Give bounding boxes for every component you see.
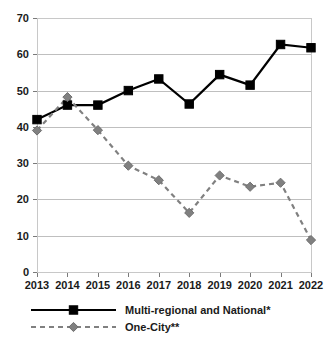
chart-canvas: 010203040506070 201320142015201620172018… — [0, 0, 327, 338]
x-axis-label: 2022 — [299, 279, 323, 291]
data-point-marker — [276, 178, 285, 187]
data-point-marker — [246, 182, 255, 191]
data-point-marker — [215, 171, 224, 180]
x-axis-tick-labels: 2013201420152016201720182019202020212022 — [25, 279, 323, 291]
x-axis-label: 2019 — [207, 279, 231, 291]
data-point-marker — [276, 40, 284, 48]
data-series — [32, 40, 315, 244]
y-axis-label: 20 — [17, 193, 29, 205]
x-axis-label: 2021 — [268, 279, 292, 291]
y-axis-tick-labels: 010203040506070 — [17, 12, 29, 278]
y-axis-label: 40 — [17, 121, 29, 133]
y-axis-label: 30 — [17, 157, 29, 169]
data-point-marker — [124, 161, 133, 170]
y-axis-label: 10 — [17, 230, 29, 242]
series-line-multi-regional — [37, 44, 311, 119]
x-axis-label: 2018 — [177, 279, 201, 291]
legend-marker-sample — [69, 306, 77, 314]
data-point-marker — [215, 70, 223, 78]
x-axis-ticks — [38, 273, 312, 277]
data-point-marker — [124, 86, 132, 94]
data-point-marker — [307, 44, 315, 52]
x-axis-label: 2016 — [116, 279, 140, 291]
data-point-marker — [155, 75, 163, 83]
gridlines — [37, 19, 311, 273]
legend-label: One-City** — [125, 321, 180, 333]
y-axis-label: 60 — [17, 48, 29, 60]
y-axis-label: 50 — [17, 85, 29, 97]
line-chart: 010203040506070 201320142015201620172018… — [0, 0, 327, 338]
legend-label: Multi-regional and National* — [125, 304, 271, 316]
y-axis-ticks — [33, 19, 37, 273]
chart-legend: Multi-regional and National*One-City** — [31, 304, 271, 333]
data-point-marker — [185, 100, 193, 108]
data-point-marker — [246, 81, 254, 89]
x-axis-label: 2015 — [86, 279, 110, 291]
data-point-marker — [33, 115, 41, 123]
y-axis-label: 70 — [17, 12, 29, 24]
data-point-marker — [94, 101, 102, 109]
y-axis-label: 0 — [23, 266, 29, 278]
series-line-one-city — [37, 97, 311, 240]
x-axis-label: 2020 — [238, 279, 262, 291]
x-axis-label: 2017 — [147, 279, 171, 291]
legend-marker-sample — [69, 322, 78, 331]
x-axis-label: 2014 — [55, 279, 80, 291]
x-axis-label: 2013 — [25, 279, 49, 291]
